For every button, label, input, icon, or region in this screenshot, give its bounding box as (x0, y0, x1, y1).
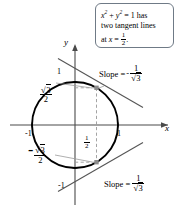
upper-slope-radicand: 3 (136, 72, 141, 83)
callout-line-3: at x = 1 2 . (101, 32, 169, 47)
lower-leader-line (55, 155, 92, 162)
callout-line-3-suffix: . (126, 34, 128, 43)
y-axis-tick-label-1: 1 (57, 68, 61, 76)
half-denominator: 2 (84, 142, 90, 150)
upper-slope-leader (99, 86, 104, 88)
neg-sign: - (27, 142, 34, 158)
lower-slope-text: Slope = (104, 179, 130, 189)
callout-line-1: x2 + y2 = 1 has (101, 7, 169, 21)
y-axis-tick-label-neg1: -1 (58, 182, 65, 190)
sqrt3-numerator: √3 (40, 86, 52, 95)
callout-line-2: two tangent lines (101, 21, 169, 32)
y-axis-arrow (72, 44, 78, 51)
half-numerator: 1 (84, 135, 90, 142)
x-axis-label: x (165, 124, 169, 133)
upper-slope-denominator: √3 (130, 73, 142, 83)
sqrt3-denominator: 2 (40, 94, 52, 104)
neg-sqrt3-denominator: 2 (34, 155, 46, 165)
neg-sqrt3-radicand: 3 (40, 144, 45, 155)
callout-line-3-prefix: at x = (101, 34, 119, 43)
upper-slope-label: Slope =- 1 √3 (99, 64, 142, 82)
figure-root: { "figure": { "type": "math-diagram", "d… (0, 0, 178, 208)
label-sqrt3-over-2: √3 2 (40, 82, 52, 104)
callout-box: x2 + y2 = 1 has two tangent lines at x =… (95, 3, 174, 48)
upper-tangent-point (94, 86, 98, 90)
lower-tangent-point (94, 160, 98, 164)
lower-slope-label: Slope = 1 √3 (104, 174, 144, 192)
y-axis-label: y (64, 38, 68, 47)
sqrt3-radicand: 3 (46, 84, 51, 95)
x-axis-tick-label-1: 1 (117, 130, 121, 138)
x-axis (10, 122, 168, 128)
label-neg-sqrt3-over-2: - √3 2 (27, 142, 46, 164)
upper-slope-text: Slope = (99, 69, 125, 79)
lower-slope-radicand: 3 (138, 182, 143, 193)
x-axis-tick-label-half: 1 2 (84, 128, 90, 150)
lower-slope-denominator: √3 (132, 183, 144, 193)
neg-sqrt3-numerator: √3 (34, 146, 46, 155)
x-axis-tick-label-neg1: -1 (25, 130, 32, 138)
